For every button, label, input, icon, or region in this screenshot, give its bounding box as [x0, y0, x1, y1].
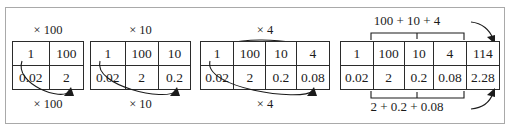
step-1-table: 1 100 0.02 2	[12, 41, 84, 90]
table-row: 1 100 10 4	[201, 42, 330, 66]
table-row: 1 100 10	[91, 42, 191, 66]
table-row: 0.02 2	[13, 66, 84, 90]
cell-r1c1: 2	[125, 66, 158, 90]
step-4-top-label: 100 + 10 + 4	[348, 14, 466, 28]
cell-r0c2: 10	[158, 42, 190, 66]
cell-r0c1: 100	[49, 42, 83, 66]
cell-r0c3: 4	[296, 42, 329, 66]
table-row: 0.02 2 0.2 0.08	[201, 66, 330, 90]
cell-r1c1: 2	[49, 66, 83, 90]
cell-r1c0: 0.02	[91, 66, 126, 90]
step-1-bottom-label: × 100	[12, 98, 84, 111]
cell-r1c0: 0.02	[341, 66, 374, 90]
figure-stage: × 100 1 100 0.02 2 × 100 × 10	[0, 0, 512, 130]
step-2-bottom-label: × 10	[90, 98, 191, 111]
step-2-top-label: × 10	[90, 24, 191, 37]
step-group-2: × 10 1 100 10 0.02 2 0.2 × 10	[90, 24, 191, 104]
cell-r1c0: 0.02	[13, 66, 50, 90]
step-1-top-label: × 100	[12, 24, 84, 37]
step-3-bottom-label: × 4	[200, 98, 330, 111]
step-3-top-label: × 4	[200, 24, 330, 37]
table-row: 0.02 2 0.2 0.08 2.28	[341, 66, 500, 90]
cell-r0c1: 100	[125, 42, 158, 66]
cell-r1c1: 2	[373, 66, 404, 90]
cell-r1c0: 0.02	[201, 66, 234, 90]
cell-r0c3: 4	[434, 42, 467, 66]
table-row: 1 100	[13, 42, 84, 66]
step-group-4: 100 + 10 + 4 1 100 10 4 114 0.02 2 0.2 0…	[340, 14, 500, 114]
cell-r1c3: 0.08	[296, 66, 329, 90]
cell-r0c2: 10	[266, 42, 296, 66]
step-group-1: × 100 1 100 0.02 2 × 100	[12, 24, 84, 104]
cell-r1c2: 0.2	[266, 66, 296, 90]
cell-r0c0: 1	[13, 42, 50, 66]
page-edge-text	[0, 0, 512, 4]
cell-r0c2: 10	[404, 42, 434, 66]
cell-r0c1: 100	[234, 42, 266, 66]
step-group-3: × 4 1 100 10 4 0.02 2 0.2 0.08 × 4	[200, 24, 330, 104]
step-3-table: 1 100 10 4 0.02 2 0.2 0.08	[200, 41, 330, 90]
cell-r0c0: 1	[91, 42, 126, 66]
cell-r1c3: 0.08	[434, 66, 467, 90]
cell-r1c2: 0.2	[404, 66, 434, 90]
table-row: 0.02 2 0.2	[91, 66, 191, 90]
step-4-table: 1 100 10 4 114 0.02 2 0.2 0.08 2.28	[340, 41, 500, 90]
cell-r0c0: 1	[201, 42, 234, 66]
cell-r1c1: 2	[234, 66, 266, 90]
table-row: 1 100 10 4 114	[341, 42, 500, 66]
cell-r0c4-result: 114	[466, 42, 499, 66]
cell-r0c1: 100	[373, 42, 404, 66]
cell-r1c2: 0.2	[158, 66, 190, 90]
step-4-bottom-label: 2 + 0.2 + 0.08	[344, 100, 470, 114]
cell-r0c0: 1	[341, 42, 374, 66]
step-2-table: 1 100 10 0.02 2 0.2	[90, 41, 191, 90]
cell-r1c4-result: 2.28	[466, 66, 499, 90]
